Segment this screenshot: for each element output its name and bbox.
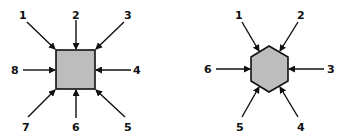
square-shape [56,50,95,89]
hexagon-arrow-1: 1 [235,9,259,51]
square-arrow-3: 3 [96,9,132,49]
square-arrow-7: 7 [22,90,55,134]
hexagon-label-4: 4 [297,121,305,134]
square-label-5: 5 [124,121,132,134]
square-figure: 1 2 3 4 5 6 7 [11,9,141,134]
square-arrow-6: 6 [72,90,80,134]
hexagon-label-5: 5 [236,121,244,134]
hexagon-label-2: 2 [297,9,305,22]
diagram-canvas: 1 2 3 4 5 6 7 [0,0,347,137]
square-label-7: 7 [22,121,30,134]
hexagon-arrow-5: 5 [236,87,259,134]
hexagon-figure: 1 2 3 4 5 6 [204,9,335,134]
square-label-4: 4 [133,64,141,77]
hexagon-shape [251,46,288,92]
square-arrow-8: 8 [11,64,55,77]
square-label-3: 3 [124,9,132,22]
square-label-1: 1 [19,9,27,22]
square-arrow-4: 4 [96,64,141,77]
square-label-6: 6 [72,121,80,134]
square-label-2: 2 [72,9,80,22]
hexagon-arrow-6: 6 [204,63,250,76]
hexagon-arrow-2: 2 [280,9,305,51]
square-label-8: 8 [11,64,19,77]
square-arrow-1: 1 [19,9,55,49]
square-arrow-5: 5 [96,90,132,134]
hexagon-label-6: 6 [204,63,212,76]
square-arrow-2: 2 [72,9,80,49]
hexagon-arrow-3: 3 [289,63,335,76]
hexagon-label-3: 3 [327,63,335,76]
hexagon-label-1: 1 [235,9,243,22]
hexagon-arrow-4: 4 [280,87,305,134]
